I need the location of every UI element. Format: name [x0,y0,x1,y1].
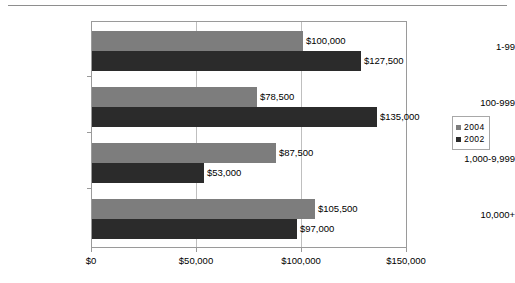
bar-2002-100-999 [92,107,377,127]
xtick-label-150000: $150,000 [386,255,426,266]
category-tick-1 [87,76,91,77]
bar-label-2004-1000-9999: $87,500 [276,143,313,163]
chart-legend: 2004 2002 [452,116,490,150]
legend-label-2004: 2004 [464,122,485,132]
category-label-4: 10,000+ [429,209,515,220]
bar-2004-100-999 [92,87,257,107]
bar-label-2004-100-999: $78,500 [257,87,294,107]
xtick-mark-0 [91,248,92,252]
legend-swatch-2002-icon [456,137,461,142]
bar-2002-1-99 [92,51,361,71]
category-label-2: 100-999 [429,97,515,108]
bar-label-2002-10000-plus: $97,000 [297,219,334,239]
category-tick-3 [87,188,91,189]
xtick-label-0: $0 [86,255,97,266]
bar-label-2004-10000-plus: $105,500 [315,199,358,219]
bar-label-2004-1-99: $100,000 [303,31,346,51]
legend-swatch-2004-icon [456,125,461,130]
bar-2004-10000-plus [92,199,315,219]
bar-label-2002-1000-9999: $53,000 [204,163,241,183]
xtick-label-100000: $100,000 [281,255,321,266]
bar-2004-1000-9999 [92,143,276,163]
xtick-mark-100000 [301,248,302,252]
bar-2004-1-99 [92,31,303,51]
xtick-mark-50000 [196,248,197,252]
legend-label-2002: 2002 [464,134,485,144]
category-tick-2 [87,132,91,133]
top-divider-rule [8,5,507,6]
bar-2002-1000-9999 [92,163,204,183]
bar-label-2002-1-99: $127,500 [361,51,404,71]
legend-item-2004: 2004 [456,121,485,133]
bar-chart-figure: 1-99 100-999 1,000-9,999 10,000+ $100,00… [0,0,515,283]
legend-item-2002: 2002 [456,133,485,145]
xtick-label-50000: $50,000 [179,255,213,266]
bar-2002-10000-plus [92,219,297,239]
category-label-1: 1-99 [429,41,515,52]
category-label-3: 1,000-9,999 [429,153,515,164]
xtick-mark-150000 [406,248,407,252]
bar-label-2002-100-999: $135,000 [377,107,420,127]
